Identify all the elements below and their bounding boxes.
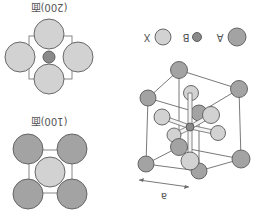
atom-a <box>57 134 87 164</box>
face-100-label: (100)面 <box>31 116 68 127</box>
atom-a <box>171 139 188 156</box>
unit-cell-3d: a <box>138 62 250 203</box>
legend-label-b: B <box>182 32 189 43</box>
legend-swatch-x <box>155 29 171 45</box>
atom-x <box>34 64 64 94</box>
atom-x <box>203 107 220 124</box>
face-200-label: (200)面 <box>31 2 68 13</box>
atom-x <box>181 152 199 170</box>
atom-a <box>140 90 156 106</box>
legend-swatch-b <box>193 33 202 42</box>
atom-a <box>138 156 154 172</box>
atom-x <box>63 42 93 72</box>
atom-x <box>34 19 64 49</box>
panel-face-200: (200)面 <box>5 2 93 94</box>
legend-label-x: X <box>143 32 150 43</box>
lattice-constant-label: a <box>161 191 167 202</box>
atom-a <box>232 150 250 168</box>
legend-swatch-a <box>228 28 246 46</box>
atom-x <box>35 157 65 187</box>
atom-b <box>43 51 55 63</box>
atom-b <box>186 123 194 131</box>
legend: A B X <box>143 28 246 46</box>
atom-a <box>13 179 43 209</box>
panel-face-100: (100)面 <box>13 116 87 209</box>
perovskite-diagram: .A { fill: #a3a3a3; stroke: #5a5a5a; str… <box>0 0 265 224</box>
atom-x <box>211 126 226 141</box>
atom-a <box>57 179 87 209</box>
lattice-constant-arrow: a <box>139 178 189 202</box>
atom-x <box>154 109 170 125</box>
atom-a <box>171 62 188 79</box>
atom-a <box>231 81 248 98</box>
atom-a <box>13 134 43 164</box>
atom-x <box>5 42 35 72</box>
legend-label-a: A <box>216 32 223 43</box>
